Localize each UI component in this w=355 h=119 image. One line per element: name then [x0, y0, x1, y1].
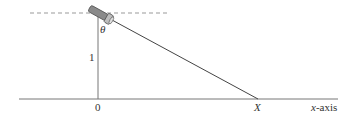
theta-label: θ [100, 23, 106, 35]
height-label: 1 [89, 51, 95, 63]
diagram-canvas: θ 1 0 X x-axis [0, 0, 355, 119]
point-x-label: X [253, 101, 262, 113]
axis-label: x-axis [310, 101, 337, 113]
origin-label: 0 [95, 101, 101, 113]
light-beam [112, 20, 258, 99]
axis-suffix: -axis [316, 101, 337, 113]
